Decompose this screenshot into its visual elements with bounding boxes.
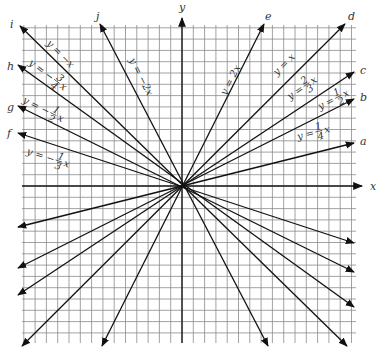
plotted-lines (18, 24, 354, 346)
fraction-denominator: 3 (53, 160, 62, 172)
line-slope-diagram: xy ay =14xby =12xcy =23xdy = xey = 2xjy … (0, 0, 386, 356)
equation-label-c: y =23x (281, 69, 322, 106)
line-f (18, 133, 354, 243)
line-letter-a: a (360, 135, 367, 148)
line-labels: ay =14xby =12xcy =23xdy = xey = 2xjy = −… (6, 10, 367, 175)
coordinate-plane: xy ay =14xby =12xcy =23xdy = xey = 2xjy … (0, 0, 386, 356)
x-axis-label: x (370, 180, 377, 193)
y-axis-label: y (178, 1, 186, 14)
line-letter-b: b (360, 91, 367, 104)
line-letter-d: d (348, 10, 355, 23)
equation-label-a: y =14x (294, 118, 333, 147)
line-letter-h: h (7, 60, 14, 73)
equation-label-f: y = −13x (23, 140, 73, 174)
equation-label-b: y =12x (313, 82, 354, 117)
line-letter-c: c (360, 64, 366, 77)
line-letter-j: j (93, 10, 100, 23)
line-letter-g: g (7, 101, 14, 114)
line-letter-f: f (6, 127, 13, 140)
equation-label-g: y = −12x (18, 89, 69, 129)
axes: xy (22, 1, 377, 343)
line-letter-e: e (265, 10, 272, 23)
equation-text: y = − (20, 94, 52, 117)
line-letter-i: i (10, 18, 14, 31)
equation-text: y = − (26, 56, 56, 83)
line-c (18, 72, 354, 295)
equation-text: y = − (24, 145, 56, 165)
line-a (18, 143, 354, 227)
